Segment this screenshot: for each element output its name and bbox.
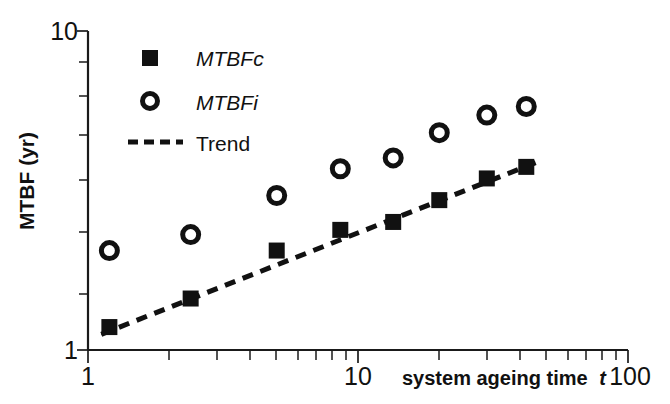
data-point-mtbfi (518, 98, 534, 114)
x-axis-ticks (88, 350, 628, 363)
data-point-mtbfc (183, 291, 199, 307)
chart-container: MTBF (yr) 10 1 1 10 100 system ageing ti… (0, 0, 670, 404)
data-point-mtbfi (183, 227, 199, 243)
legend-label-trend: Trend (196, 132, 250, 155)
legend-label-mtbfi: MTBFi (196, 91, 259, 114)
legend-label-mtbfc: MTBFc (196, 47, 264, 70)
trend-line (101, 162, 537, 334)
log-log-scatter-chart: MTBF (yr) 10 1 1 10 100 system ageing ti… (0, 0, 670, 404)
chart-legend: MTBFc MTBFi Trend (128, 47, 264, 155)
x-axis-title-variable: t (599, 367, 607, 389)
data-point-mtbfc (332, 222, 348, 238)
legend-marker-open-circle (143, 94, 158, 109)
x-tick-label-10: 10 (344, 362, 372, 390)
data-point-mtbfi (269, 188, 285, 204)
y-axis-ticks (77, 31, 88, 350)
legend-marker-filled-square (142, 50, 158, 66)
data-point-mtbfc (101, 319, 117, 335)
data-point-mtbfi (385, 150, 401, 166)
y-tick-label-1: 1 (64, 336, 78, 364)
data-point-mtbfc (269, 243, 285, 259)
data-point-mtbfc (479, 170, 495, 186)
series-mtbfi-points (101, 98, 534, 258)
data-point-mtbfi (332, 161, 348, 177)
y-tick-label-10: 10 (50, 17, 78, 45)
data-point-mtbfc (431, 192, 447, 208)
data-point-mtbfc (518, 159, 534, 175)
x-axis-title-text: system ageing time (402, 367, 588, 389)
data-point-mtbfi (101, 243, 117, 259)
x-axis-title: system ageing time t (402, 367, 607, 389)
data-point-mtbfi (479, 107, 495, 123)
x-tick-label-100: 100 (609, 362, 651, 390)
data-point-mtbfc (385, 214, 401, 230)
x-tick-label-1: 1 (81, 362, 95, 390)
data-point-mtbfi (431, 125, 447, 141)
y-axis-title: MTBF (yr) (15, 132, 38, 230)
